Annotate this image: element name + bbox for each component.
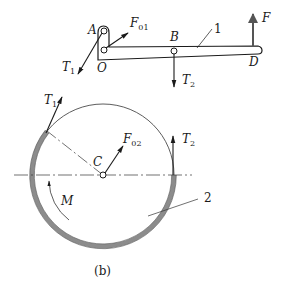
part-1-leader <box>197 29 212 48</box>
label-t2-lever: T2 <box>182 73 195 89</box>
label-a: A <box>87 23 97 37</box>
label-c: C <box>93 155 102 169</box>
label-f: F <box>261 11 271 25</box>
label-m: M <box>60 194 74 208</box>
label-t2-drum: T2 <box>182 132 195 148</box>
label-f02: F02 <box>122 132 142 148</box>
label-t1-drum: T1 <box>44 93 57 109</box>
brake-band-outline-outer <box>30 130 177 249</box>
band-brake-diagram: A O B D 1 F01 T1 T2 F <box>0 0 281 284</box>
lever-bar <box>98 26 262 60</box>
force-f02-arrow <box>105 146 123 173</box>
label-part-1: 1 <box>214 22 222 36</box>
label-o: O <box>97 61 107 75</box>
label-d: D <box>248 55 259 69</box>
part-2-leader <box>148 199 198 216</box>
figure-caption: (b) <box>94 264 111 278</box>
label-part-2: 2 <box>204 191 212 205</box>
label-t1-lever: T1 <box>62 60 75 76</box>
label-f01: F01 <box>129 16 149 32</box>
label-b: B <box>169 30 179 44</box>
drum-assembly: C M 2 F02 T1 T2 <box>14 93 212 249</box>
pin-b <box>171 48 177 54</box>
lever-assembly: A O B D 1 F01 T1 T2 F <box>62 11 271 89</box>
